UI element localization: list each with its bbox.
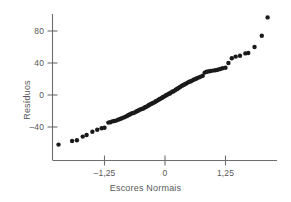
- data-point: [246, 51, 250, 55]
- scatter-points: [56, 15, 269, 147]
- data-point: [75, 138, 79, 142]
- data-point: [260, 34, 264, 38]
- y-tick-label: 40: [34, 58, 44, 68]
- data-point: [230, 56, 234, 60]
- data-point: [90, 130, 94, 134]
- x-tick-label: –1,25: [94, 168, 116, 178]
- data-point: [265, 15, 269, 19]
- data-point: [233, 54, 237, 58]
- x-tick-label: 0: [163, 168, 168, 178]
- data-point: [252, 45, 256, 49]
- x-tick-label: 1,25: [217, 168, 234, 178]
- data-point: [81, 134, 85, 138]
- data-point: [226, 61, 230, 65]
- x-axis-title: Escores Normais: [0, 183, 291, 193]
- data-point: [84, 133, 88, 137]
- data-point: [70, 139, 74, 143]
- data-point: [238, 54, 242, 58]
- data-point: [95, 128, 99, 132]
- y-axis-title: Resíduos: [22, 55, 32, 145]
- data-point: [102, 126, 106, 130]
- y-tick-label: 0: [39, 90, 44, 100]
- data-point: [56, 142, 60, 146]
- y-tick-label: 80: [34, 26, 44, 36]
- data-point: [223, 66, 227, 70]
- qq-plot-figure: 80400–40 –1,2501,25 Resíduos Escores Nor…: [0, 0, 291, 202]
